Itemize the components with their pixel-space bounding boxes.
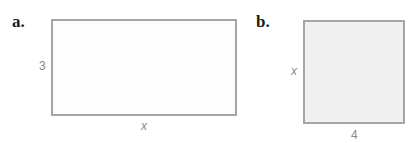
rectangle-b-width-label: 4: [351, 128, 358, 142]
rectangle-b: [303, 20, 405, 124]
rectangle-a-height-label: 3: [39, 59, 46, 73]
figure-b-label: b.: [256, 12, 270, 32]
rectangle-a: [51, 19, 237, 116]
rectangle-b-height-label: x: [291, 64, 297, 78]
rectangle-a-width-label: x: [141, 119, 147, 133]
figure-a-label: a.: [12, 12, 25, 32]
